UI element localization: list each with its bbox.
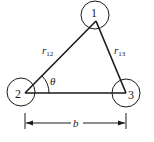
dimension-label: b — [73, 117, 79, 129]
node-2-label: 2 — [15, 87, 21, 101]
node-3-label: 3 — [128, 88, 134, 102]
arrowhead-left-icon — [26, 121, 33, 126]
angle-label: θ — [50, 75, 56, 87]
edge-r12-label: r12 — [42, 44, 54, 58]
edge-r13-label: r13 — [114, 44, 126, 58]
edge-r12 — [25, 21, 96, 93]
angle-arc — [42, 76, 49, 93]
triangle-diagram: 1 2 3 r12 r13 θ b — [0, 0, 154, 142]
node-2-circle — [7, 78, 35, 106]
node-1-label: 1 — [91, 6, 97, 20]
arrowhead-right-icon — [118, 121, 125, 126]
